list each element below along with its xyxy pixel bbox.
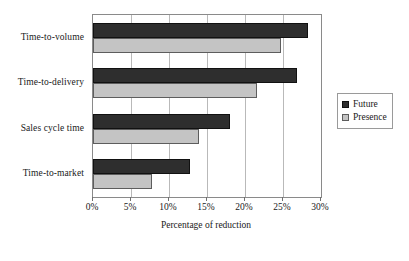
legend-label: Future bbox=[353, 99, 378, 110]
x-axis-tick bbox=[130, 197, 131, 201]
bar-future-time-to-market bbox=[93, 159, 190, 174]
x-axis-title: Percentage of reduction bbox=[92, 219, 320, 231]
category-label: Sales cycle time bbox=[0, 123, 84, 133]
x-axis-tick-label: 5% bbox=[113, 202, 147, 213]
gridline bbox=[283, 15, 284, 197]
legend-swatch-presence-icon bbox=[342, 114, 349, 121]
legend-item-future[interactable]: Future bbox=[342, 98, 387, 111]
legend-label: Presence bbox=[353, 112, 387, 123]
x-axis-tick bbox=[168, 197, 169, 201]
x-axis-tick-label: 25% bbox=[265, 202, 299, 213]
category-label: Time-to-volume bbox=[0, 32, 84, 42]
bar-future-time-to-volume bbox=[93, 23, 308, 38]
x-axis-tick-label: 10% bbox=[151, 202, 185, 213]
category-axis-labels: Time-to-volumeTime-to-deliverySales cycl… bbox=[0, 14, 88, 196]
chart-legend: FuturePresence bbox=[337, 93, 393, 129]
bar-chart: Time-to-volumeTime-to-deliverySales cycl… bbox=[0, 0, 409, 261]
bar-presence-sales-cycle-time bbox=[93, 129, 199, 144]
x-axis-tick bbox=[206, 197, 207, 201]
x-axis-tick-label: 20% bbox=[227, 202, 261, 213]
legend-item-presence[interactable]: Presence bbox=[342, 111, 387, 124]
x-axis-tick bbox=[92, 197, 93, 201]
bar-presence-time-to-delivery bbox=[93, 83, 257, 98]
category-label: Time-to-market bbox=[0, 168, 84, 178]
bar-presence-time-to-market bbox=[93, 174, 152, 189]
x-axis-tick bbox=[244, 197, 245, 201]
x-axis-tick bbox=[320, 197, 321, 201]
bar-presence-time-to-volume bbox=[93, 38, 281, 53]
legend-swatch-future-icon bbox=[342, 101, 349, 108]
x-axis-tick-label: 30% bbox=[303, 202, 337, 213]
bar-future-sales-cycle-time bbox=[93, 114, 230, 129]
x-axis-tick-label: 15% bbox=[189, 202, 223, 213]
x-axis-tick-label: 0% bbox=[75, 202, 109, 213]
category-label: Time-to-delivery bbox=[0, 77, 84, 87]
x-axis-tick bbox=[282, 197, 283, 201]
bar-future-time-to-delivery bbox=[93, 68, 297, 83]
plot-area bbox=[92, 14, 322, 198]
